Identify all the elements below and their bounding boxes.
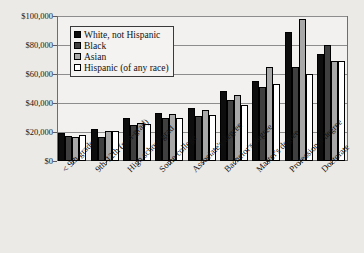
- x-axis-tick-label: Professional degree: [287, 117, 344, 174]
- x-axis-tick-label: < 9th grade: [60, 138, 96, 174]
- bar-chart: $100,000$80,000$60,000$40,000$20,000$0 W…: [0, 0, 364, 253]
- x-axis-tick-label: Doctorate: [319, 142, 351, 174]
- x-axis-tick-label: 9th-12th (non-grad): [93, 117, 150, 174]
- x-axis: < 9th grade9th-12th (non-grad)High schoo…: [0, 0, 364, 253]
